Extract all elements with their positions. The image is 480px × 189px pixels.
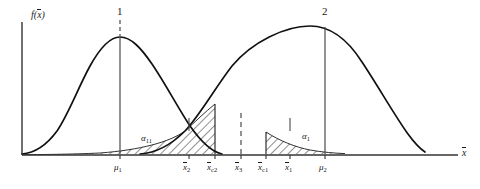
tick-label-xbar-c1-subscript: c1 bbox=[262, 166, 268, 173]
alpha-11-subscript: 11 bbox=[146, 137, 152, 144]
tick-label-mu-2-subscript: 2 bbox=[324, 166, 327, 173]
x-axis-label-var: x bbox=[462, 148, 466, 158]
y-axis-label-close: ) bbox=[42, 9, 45, 20]
y-axis-label-var: x bbox=[37, 10, 41, 20]
tick-label-mu-2: μ2 bbox=[319, 163, 327, 172]
distribution-figure: f(x) x 1 2 α11 α1 μ1 x2 xc2 x3 xc1 x1 μ2 bbox=[0, 0, 480, 189]
tick-label-mu-1: μ1 bbox=[114, 163, 122, 172]
figure-canvas bbox=[0, 0, 480, 189]
tick-label-xbar-c2: xc2 bbox=[207, 163, 217, 172]
curve-2-label: 2 bbox=[322, 6, 328, 17]
tick-label-xbar-c2-subscript: c2 bbox=[211, 166, 217, 173]
alpha-1-label: α1 bbox=[302, 132, 310, 141]
tick-label-mu-1-symbol: μ bbox=[114, 162, 119, 172]
tick-label-xbar-2: x2 bbox=[183, 163, 190, 172]
tick-label-xbar-3: x3 bbox=[235, 163, 242, 172]
tick-label-xbar-3-subscript: 3 bbox=[239, 166, 242, 173]
tick-label-mu-2-symbol: μ bbox=[319, 162, 324, 172]
x-axis-label: x bbox=[462, 148, 466, 158]
tick-label-xbar-1: x1 bbox=[285, 163, 292, 172]
y-axis-label: f(x) bbox=[31, 10, 45, 20]
alpha-11-label: α11 bbox=[141, 134, 152, 143]
tick-label-xbar-c1: xc1 bbox=[258, 163, 268, 172]
tick-label-xbar-1-subscript: 1 bbox=[289, 166, 292, 173]
tick-label-xbar-2-subscript: 2 bbox=[187, 166, 190, 173]
tick-label-mu-1-subscript: 1 bbox=[119, 166, 122, 173]
alpha-1-subscript: 1 bbox=[307, 135, 310, 142]
curve-1-label: 1 bbox=[117, 6, 123, 17]
